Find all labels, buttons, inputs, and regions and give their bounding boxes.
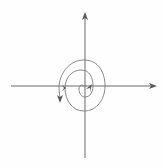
spiral-arrowhead-inner [86, 84, 92, 92]
phase-portrait-svg [0, 0, 163, 167]
phase-portrait-figure: Spiral sink phase portrait [0, 0, 163, 167]
